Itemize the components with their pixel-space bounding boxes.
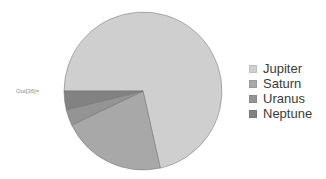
legend-swatch-jupiter	[249, 65, 257, 73]
chart-legend: Jupiter Saturn Uranus Neptune	[249, 61, 312, 121]
legend-swatch-saturn	[249, 80, 257, 88]
pie-wedges	[64, 12, 222, 170]
legend-swatch-uranus	[249, 95, 257, 103]
legend-label: Uranus	[263, 91, 305, 106]
legend-label: Jupiter	[263, 61, 302, 76]
legend-item-neptune: Neptune	[249, 106, 312, 121]
legend-label: Neptune	[263, 106, 312, 121]
legend-item-saturn: Saturn	[249, 76, 312, 91]
legend-label: Saturn	[263, 76, 301, 91]
legend-swatch-neptune	[249, 110, 257, 118]
legend-item-jupiter: Jupiter	[249, 61, 312, 76]
legend-item-uranus: Uranus	[249, 91, 312, 106]
